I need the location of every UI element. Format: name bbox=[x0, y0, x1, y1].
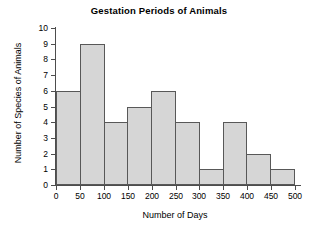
chart-title: Gestation Periods of Animals bbox=[0, 5, 318, 16]
y-tick-label: 0 bbox=[24, 181, 48, 190]
x-tick-mark bbox=[176, 186, 177, 190]
histogram-bar bbox=[199, 169, 224, 185]
x-tick-mark bbox=[247, 186, 248, 190]
histogram-bar bbox=[80, 44, 105, 185]
x-tick-mark bbox=[271, 186, 272, 190]
x-tick-mark bbox=[80, 186, 81, 190]
histogram-bar bbox=[151, 91, 176, 185]
bar-series bbox=[56, 28, 295, 185]
histogram-bar bbox=[56, 91, 81, 185]
histogram-bar bbox=[127, 107, 152, 186]
y-tick-label: 10 bbox=[24, 24, 48, 33]
x-axis-title: Number of Days bbox=[46, 210, 304, 220]
y-tick-label: 8 bbox=[24, 55, 48, 64]
x-tick-mark bbox=[56, 186, 57, 190]
y-tick-label: 6 bbox=[24, 87, 48, 96]
y-tick-mark bbox=[51, 75, 55, 76]
histogram-bar bbox=[270, 169, 295, 185]
plot-area bbox=[56, 28, 295, 185]
y-tick-mark bbox=[51, 138, 55, 139]
x-tick-mark bbox=[199, 186, 200, 190]
y-axis-title: Number of Species of Animals bbox=[13, 23, 23, 183]
histogram-bar bbox=[175, 122, 200, 185]
x-tick-mark bbox=[128, 186, 129, 190]
y-tick-mark bbox=[51, 59, 55, 60]
x-tick-mark bbox=[104, 186, 105, 190]
y-tick-label: 2 bbox=[24, 150, 48, 159]
histogram-figure: Gestation Periods of Animals 10987654321… bbox=[0, 0, 318, 234]
y-tick-mark bbox=[51, 122, 55, 123]
y-tick-mark bbox=[51, 44, 55, 45]
histogram-bar bbox=[223, 122, 248, 185]
y-tick-mark bbox=[51, 185, 55, 186]
x-axis-line bbox=[55, 185, 301, 186]
y-tick-label: 7 bbox=[24, 71, 48, 80]
y-tick-mark bbox=[51, 91, 55, 92]
y-tick-mark bbox=[51, 154, 55, 155]
x-tick-mark bbox=[223, 186, 224, 190]
x-tick-label: 500 bbox=[280, 192, 310, 201]
y-tick-mark bbox=[51, 28, 55, 29]
x-tick-mark bbox=[295, 186, 296, 190]
y-tick-mark bbox=[51, 169, 55, 170]
x-tick-mark bbox=[152, 186, 153, 190]
y-tick-label: 1 bbox=[24, 165, 48, 174]
histogram-bar bbox=[104, 122, 129, 185]
y-tick-label: 5 bbox=[24, 103, 48, 112]
y-tick-label: 4 bbox=[24, 118, 48, 127]
y-tick-mark bbox=[51, 107, 55, 108]
histogram-bar bbox=[246, 154, 271, 185]
y-tick-label: 9 bbox=[24, 40, 48, 49]
y-tick-label: 3 bbox=[24, 134, 48, 143]
